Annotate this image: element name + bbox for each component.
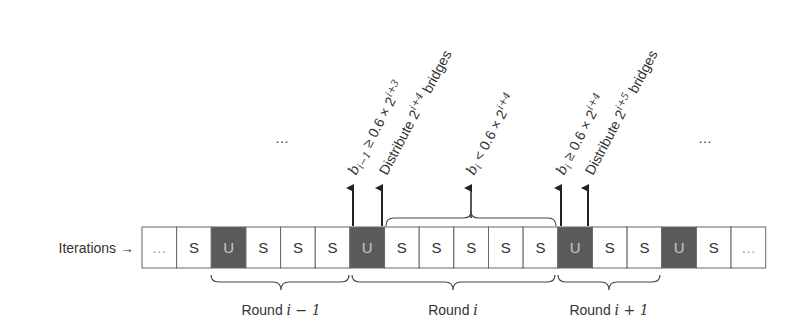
round-label-i-plus-1: Round i + 1: [569, 302, 648, 318]
top-brace: [386, 212, 556, 226]
ellipsis-top-right: …: [698, 130, 712, 146]
cell-label: S: [293, 239, 303, 256]
cell-label: S: [328, 239, 338, 256]
round-label-i: Round i: [428, 302, 478, 318]
iteration-cells: …SUSSSUSSSSSUSSUS…: [142, 227, 766, 268]
cell-label: S: [466, 239, 476, 256]
round-label-i-minus-1: Round i − 1: [241, 302, 320, 318]
cell-label: S: [432, 239, 442, 256]
cell-label: S: [605, 239, 615, 256]
row-label: Iterations →: [59, 240, 134, 256]
cell-label: S: [258, 239, 268, 256]
cell-label: U: [674, 239, 685, 256]
cell-label: …: [152, 239, 167, 256]
cell-label: U: [570, 239, 581, 256]
cell-label: S: [189, 239, 199, 256]
cell-label: S: [709, 239, 719, 256]
cell-label: U: [223, 239, 234, 256]
brace-round-i-minus-1: [211, 275, 349, 290]
ellipsis-top-left: …: [275, 130, 289, 146]
cell-label: S: [639, 239, 649, 256]
cell-label: S: [397, 239, 407, 256]
annotation-cond2: bi < 0.6 × 2i+4: [461, 90, 521, 178]
brace-round-i: [352, 275, 555, 290]
cell-label: U: [362, 239, 373, 256]
cell-label: …: [741, 239, 756, 256]
cell-label: S: [535, 239, 545, 256]
iterations-diagram: Iterations → …SUSSSUSSSSSUSSUS… … … Roun…: [0, 0, 802, 335]
cell-label: S: [501, 239, 511, 256]
brace-round-i-plus-1: [558, 275, 660, 290]
